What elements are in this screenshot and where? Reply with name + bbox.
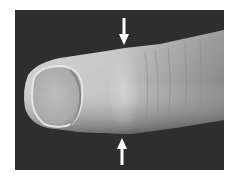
swelling: [108, 48, 140, 132]
finger-photograph: [0, 0, 239, 182]
